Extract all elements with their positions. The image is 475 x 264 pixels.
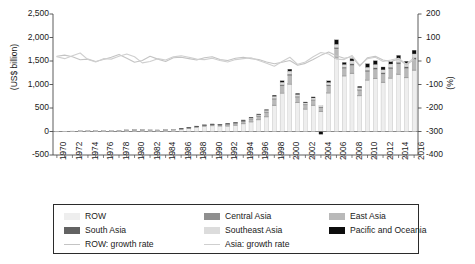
bar-segment — [272, 98, 276, 99]
bar-segment — [63, 131, 67, 132]
legend-item[interactable]: Southeast Asia — [204, 224, 282, 236]
legend-label: South Asia — [85, 225, 126, 235]
bar-segment — [373, 64, 377, 67]
bar-segment — [366, 64, 370, 68]
chart-container: (US$ billion) (%) 2,5002,0001,5001,00050… — [0, 0, 475, 264]
bar-segment — [311, 100, 315, 105]
bar-segment — [171, 129, 175, 130]
legend-item[interactable]: ROW: growth rate — [64, 238, 154, 250]
bar-segment — [311, 97, 315, 98]
legend-item[interactable]: East Asia — [329, 210, 386, 222]
bar-segment — [412, 50, 416, 54]
bar-segment — [381, 73, 385, 74]
bar-segment — [179, 129, 183, 131]
bar-segment — [389, 67, 393, 68]
bar-segment — [55, 131, 59, 132]
bar-segment — [303, 103, 307, 104]
bar-segment — [350, 65, 354, 73]
bar-segment — [257, 114, 261, 115]
legend-item[interactable]: Pacific and Oceania — [329, 224, 426, 236]
legend-item[interactable]: South Asia — [64, 224, 126, 236]
bar-segment — [296, 102, 300, 131]
bar-segment — [70, 131, 74, 132]
bar-segment — [358, 88, 362, 90]
bar-segment — [265, 110, 269, 111]
bar-segment — [117, 130, 121, 131]
legend-item[interactable]: Asia: growth rate — [204, 238, 289, 250]
bar-segment — [404, 68, 408, 77]
bar-segment — [218, 126, 222, 131]
bar-segment — [218, 124, 222, 125]
bar-segment — [288, 71, 292, 74]
bar-segment — [342, 65, 346, 68]
legend-color-swatch — [64, 227, 80, 234]
bar-segment — [366, 80, 370, 131]
bar-segment — [366, 70, 370, 71]
bar-segment — [249, 117, 253, 118]
bar-segment — [272, 99, 276, 105]
bar-segment — [303, 105, 307, 109]
bar-segment — [412, 70, 416, 131]
bar-segment — [327, 86, 331, 93]
bar-segment — [187, 128, 191, 131]
bar-segment — [272, 96, 276, 98]
legend-item[interactable]: Central Asia — [204, 210, 271, 222]
bar-segment — [373, 68, 377, 69]
bar-segment — [397, 64, 401, 74]
bar-segment — [389, 69, 393, 78]
legend-label: ROW — [85, 211, 106, 221]
bar-segment — [78, 131, 82, 132]
bar-segment — [226, 123, 230, 124]
bar-segment — [241, 123, 245, 131]
bar-segment — [373, 79, 377, 132]
bar-segment — [373, 61, 377, 65]
bar-segment — [296, 93, 300, 94]
bar-segment — [280, 86, 284, 93]
legend-item[interactable]: ROW — [64, 210, 106, 222]
bar-segment — [397, 74, 401, 75]
bar-segment — [412, 54, 416, 58]
bar-segment — [280, 85, 284, 86]
legend-line-marker — [64, 244, 80, 245]
bar-segment — [280, 81, 284, 82]
legend-label: Asia: growth rate — [225, 239, 289, 249]
legend-color-swatch — [204, 213, 220, 220]
bar-segment — [280, 82, 284, 85]
bar-segment — [272, 105, 276, 131]
legend-label: Pacific and Oceania — [350, 225, 426, 235]
bar-segment — [397, 62, 401, 64]
bar-segment — [350, 61, 354, 64]
bar-segment — [179, 128, 183, 129]
bar-segment — [202, 125, 206, 126]
bar-segment — [272, 95, 276, 96]
bar-segment — [311, 105, 315, 131]
bar-segment — [210, 124, 214, 125]
bar-segment — [288, 69, 292, 71]
bar-segment — [358, 90, 362, 91]
bar-segment — [265, 117, 269, 132]
legend-label: ROW: growth rate — [85, 239, 154, 249]
bar-segment — [257, 119, 261, 131]
bar-segment — [125, 130, 129, 131]
legend-label: Central Asia — [225, 211, 271, 221]
bar-segment — [350, 74, 354, 132]
bar-segment — [233, 122, 237, 123]
bar-segment — [366, 72, 370, 80]
legend-color-swatch — [204, 227, 220, 234]
legend-color-swatch — [64, 213, 80, 220]
bar-segment — [195, 126, 199, 127]
bar-segment — [257, 116, 261, 119]
bar-segment — [195, 127, 199, 131]
legend-color-swatch — [329, 213, 345, 220]
bar-segment — [319, 106, 323, 107]
bar-segment — [373, 69, 377, 78]
bar-segment — [350, 64, 354, 65]
bar-segment — [265, 110, 269, 111]
bar-segment — [327, 93, 331, 132]
bar-segment — [358, 96, 362, 132]
bar-segment — [164, 130, 168, 131]
bar-segment — [404, 78, 408, 132]
bar-segment — [342, 62, 346, 64]
bar-segment — [109, 130, 113, 131]
bar-segment — [319, 108, 323, 111]
